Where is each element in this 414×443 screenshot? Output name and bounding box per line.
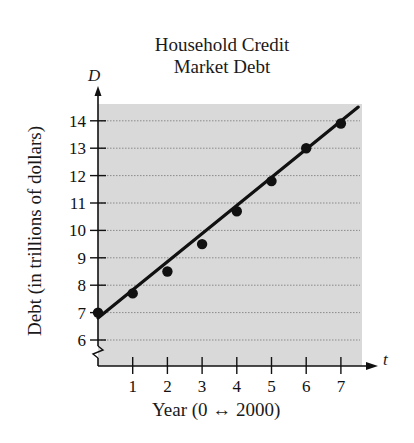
y-tick-label: 8 (78, 276, 87, 295)
y-tick-label: 11 (70, 194, 86, 213)
y-tick-label: 9 (78, 249, 87, 268)
y-tick-label: 12 (69, 167, 86, 186)
plot-background (98, 104, 362, 366)
x-tick-label: 2 (163, 377, 172, 396)
data-point (336, 118, 346, 128)
x-axis-arrow-icon (366, 362, 378, 370)
y-tick-label: 7 (78, 304, 87, 323)
data-point (128, 288, 138, 298)
x-tick-label: 6 (302, 377, 311, 396)
plot-area (98, 104, 362, 366)
y-tick-label: 6 (78, 331, 87, 350)
data-point (232, 206, 242, 216)
y-tick-label: 13 (69, 139, 86, 158)
x-tick-label: 1 (128, 377, 137, 396)
data-point (301, 143, 311, 153)
y-tick-label: 10 (69, 221, 86, 240)
x-tick-label: 7 (337, 377, 346, 396)
x-tick-label: 3 (198, 377, 207, 396)
chart-plot: 678910111213141234567 (0, 0, 414, 443)
y-axis-arrow-icon (95, 86, 102, 96)
data-point (93, 307, 103, 317)
data-point (162, 266, 172, 276)
data-point (266, 176, 276, 186)
data-point (197, 239, 207, 249)
x-tick-label: 4 (233, 377, 242, 396)
y-tick-label: 14 (69, 112, 87, 131)
x-tick-label: 5 (267, 377, 276, 396)
